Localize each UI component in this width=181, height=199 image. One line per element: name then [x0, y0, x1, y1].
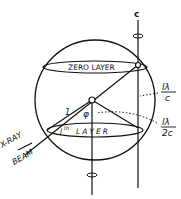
lth-layer-sup: th — [64, 125, 69, 131]
oscillation-sphere-diagram: c ZERO LAYER l th LAYER 1 φ X-RAY BEAM l… — [0, 0, 181, 199]
label-lc-numerator: lλ — [162, 82, 170, 92]
x-ray-beam-line — [25, 65, 138, 155]
label-lc-denominator: c — [165, 93, 170, 103]
crystal-origin-icon — [89, 97, 95, 103]
beam-label-line2: BEAM — [11, 147, 35, 166]
angle-phi-label: φ — [83, 109, 89, 119]
lth-layer-label: LAYER — [76, 127, 110, 136]
radius-label: 1 — [65, 108, 70, 117]
c-axis-label: c — [134, 9, 139, 19]
reciprocal-origin-icon — [136, 63, 141, 68]
zero-layer-label: ZERO LAYER — [68, 63, 115, 72]
beam-label-line1: X-RAY — [0, 130, 24, 151]
label-l2c-denominator: 2c — [162, 128, 173, 138]
label-l2c-numerator: lλ — [162, 117, 170, 127]
